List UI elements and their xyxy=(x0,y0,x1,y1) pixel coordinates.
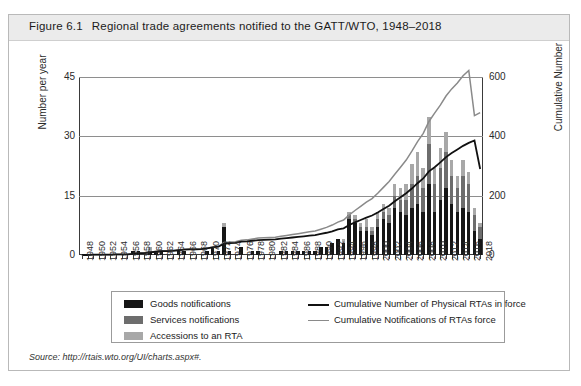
x-tick-label: 1972 xyxy=(222,241,232,261)
x-tick-label: 2006 xyxy=(415,241,425,261)
legend-label: Cumulative Notifications of RTAs force xyxy=(334,314,496,325)
x-tick-label: 2000 xyxy=(381,241,391,261)
x-tick-label: 1994 xyxy=(347,241,357,261)
y-tick-right: 200 xyxy=(489,190,519,201)
x-tick-label: 2016 xyxy=(472,241,482,261)
legend-label: Goods notifications xyxy=(150,298,231,309)
x-tick-label: 2018 xyxy=(484,241,494,261)
figure-title: Figure 6.1Regional trade agreements noti… xyxy=(29,20,442,32)
source-prefix: Source: xyxy=(29,352,60,362)
figure-title-text: Regional trade agreements notified to th… xyxy=(92,20,442,32)
x-tick-label: 1988 xyxy=(313,241,323,261)
x-tick-label: 1962 xyxy=(165,241,175,261)
figure-source: Source: http://rtais.wto.org/UI/charts.a… xyxy=(29,352,202,362)
y-tick-left: 0 xyxy=(49,249,75,260)
y-tick-left: 45 xyxy=(49,71,75,82)
plot-area xyxy=(79,77,483,255)
x-tick-label: 1978 xyxy=(256,241,266,261)
x-tick-label: 1990 xyxy=(324,241,334,261)
x-tick-label: 1958 xyxy=(142,241,152,261)
y-axis-left-label: Number per year xyxy=(37,47,48,137)
legend-swatch xyxy=(124,316,143,324)
x-tick-label: 1974 xyxy=(233,241,243,261)
x-tick-label: 1968 xyxy=(199,241,209,261)
x-tick-label: 1980 xyxy=(267,241,277,261)
y-tick-left: 30 xyxy=(49,130,75,141)
x-tick-label: 1948 xyxy=(85,241,95,261)
legend-line xyxy=(308,320,329,321)
x-tick-label: 1976 xyxy=(245,241,255,261)
x-tick-label: 2008 xyxy=(427,241,437,261)
y-tick-right: 400 xyxy=(489,130,519,141)
y-tick-right: 600 xyxy=(489,71,519,82)
x-tick-label: 1998 xyxy=(370,241,380,261)
legend-label: Services notifications xyxy=(150,314,239,325)
x-tick-label: 1966 xyxy=(188,241,198,261)
figure-container: Figure 6.1Regional trade agreements noti… xyxy=(8,14,570,371)
line-cumulative-notifications xyxy=(82,70,480,255)
x-tick-label: 1950 xyxy=(97,241,107,261)
x-tick-label: 1954 xyxy=(119,241,129,261)
line-cumulative-physical-rtas xyxy=(82,140,480,255)
legend-label: Cumulative Number of Physical RTAs in fo… xyxy=(334,298,526,309)
y-tick-left: 15 xyxy=(49,190,75,201)
x-tick-label: 2004 xyxy=(404,241,414,261)
x-tick-label: 1984 xyxy=(290,241,300,261)
x-tick-label: 2002 xyxy=(393,241,403,261)
x-tick-label: 1982 xyxy=(279,241,289,261)
x-tick-label: 1986 xyxy=(302,241,312,261)
legend-swatch xyxy=(124,332,143,340)
y-axis-right-label: Cumulative Number xyxy=(553,37,564,137)
x-tick-label: 1964 xyxy=(176,241,186,261)
x-tick-label: 2010 xyxy=(438,241,448,261)
x-tick xyxy=(82,255,83,259)
legend-label: Accessions to an RTA xyxy=(150,330,243,341)
x-tick-label: 1952 xyxy=(108,241,118,261)
x-tick-label: 1960 xyxy=(154,241,164,261)
x-tick-label: 1970 xyxy=(211,241,221,261)
source-url: http://rtais.wto.org/UI/charts.aspx#. xyxy=(63,352,202,362)
plot-wrapper: Number per year Cumulative Number 015304… xyxy=(9,41,569,372)
chart-legend: Goods notificationsServices notification… xyxy=(111,291,505,343)
line-series-group xyxy=(79,77,483,255)
x-tick-label: 1996 xyxy=(358,241,368,261)
figure-number: Figure 6.1 xyxy=(29,20,83,32)
x-tick-label: 2012 xyxy=(450,241,460,261)
x-tick-label: 1992 xyxy=(336,241,346,261)
legend-swatch xyxy=(124,300,143,308)
x-tick-label: 2014 xyxy=(461,241,471,261)
x-tick-label: 1956 xyxy=(131,241,141,261)
legend-line xyxy=(308,304,329,306)
